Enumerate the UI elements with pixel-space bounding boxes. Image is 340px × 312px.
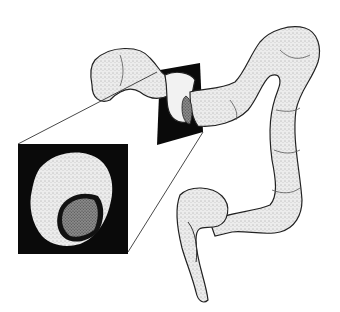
magnified-inset [18, 144, 128, 254]
medical-illustration [0, 0, 340, 312]
colon-drawing [0, 0, 340, 312]
